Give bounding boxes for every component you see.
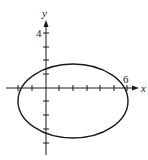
y-tick-label-4: 4 xyxy=(36,27,42,39)
x-axis-label: x xyxy=(140,82,146,94)
x-axis-arrow-icon xyxy=(132,86,139,91)
x-tick-label-6: 6 xyxy=(123,73,129,85)
graph: x y 6 4 xyxy=(0,0,148,160)
y-axis-arrow-icon xyxy=(44,20,49,27)
y-axis-label: y xyxy=(41,7,47,19)
ellipse-curve xyxy=(18,64,128,138)
